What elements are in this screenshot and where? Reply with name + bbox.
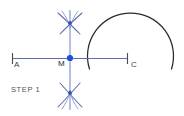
geometry-construction-figure <box>0 0 184 116</box>
step-caption: STEP 1 <box>11 86 40 94</box>
point-label-m: M <box>58 60 65 68</box>
lower-intersection-point <box>68 91 72 95</box>
point-label-a: A <box>14 61 19 69</box>
upper-intersection-point <box>68 21 72 25</box>
point-label-c: C <box>131 61 137 69</box>
midpoint-marker-m <box>67 55 73 61</box>
